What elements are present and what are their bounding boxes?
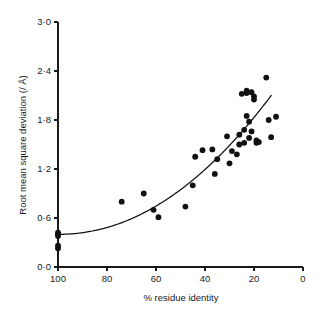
y-tick-label: 3·0	[37, 16, 51, 27]
data-point	[192, 154, 198, 160]
x-tick-label: 20	[249, 273, 260, 284]
data-point	[200, 147, 206, 153]
y-tick-labels: 0·00·61·21·82·43·0	[37, 16, 51, 272]
x-axis-title: % residue identity	[144, 292, 219, 303]
data-point	[241, 127, 247, 133]
x-tick-label: 0	[300, 273, 305, 284]
data-point	[212, 171, 218, 177]
data-point	[263, 75, 269, 81]
data-point	[55, 245, 61, 251]
data-point	[241, 140, 247, 146]
data-point	[251, 97, 257, 103]
data-point	[236, 132, 242, 138]
data-point	[55, 233, 61, 239]
data-point	[214, 156, 220, 162]
data-point	[268, 134, 274, 140]
data-point	[256, 139, 262, 145]
y-tick-label: 0·0	[37, 261, 51, 272]
y-tick-label: 1·2	[37, 163, 51, 174]
data-point	[229, 148, 235, 154]
data-point	[273, 114, 279, 120]
data-point	[151, 207, 157, 213]
y-tick-label: 0·6	[37, 212, 51, 223]
data-point	[227, 160, 233, 166]
data-point	[119, 199, 125, 205]
x-tick-label: 100	[50, 273, 66, 284]
x-tick-label: 40	[200, 273, 211, 284]
axis-ticks	[54, 22, 303, 271]
fit-curve	[58, 96, 271, 235]
data-point	[190, 182, 196, 188]
data-point	[209, 147, 215, 153]
data-point	[266, 117, 272, 123]
trend-line	[58, 96, 271, 235]
chart-figure: 0·00·61·21·82·43·0 100806040200 % residu…	[0, 0, 327, 310]
data-point	[249, 129, 255, 135]
data-point	[239, 91, 245, 97]
x-tick-label: 60	[151, 273, 162, 284]
x-tick-label: 80	[102, 273, 113, 284]
data-point	[224, 133, 230, 139]
data-point	[183, 204, 189, 210]
data-point	[234, 151, 240, 157]
y-tick-label: 1·8	[37, 114, 51, 125]
x-tick-labels: 100806040200	[50, 273, 306, 284]
data-point	[244, 113, 250, 119]
y-tick-label: 2·4	[37, 65, 51, 76]
data-points	[55, 75, 279, 251]
data-point	[141, 191, 147, 197]
y-axis-title: Root mean square deviation (/ Å)	[17, 75, 28, 214]
data-point	[156, 214, 162, 220]
data-point	[246, 119, 252, 125]
data-point	[246, 135, 252, 141]
scatter-plot: 0·00·61·21·82·43·0 100806040200 % residu…	[0, 0, 327, 310]
